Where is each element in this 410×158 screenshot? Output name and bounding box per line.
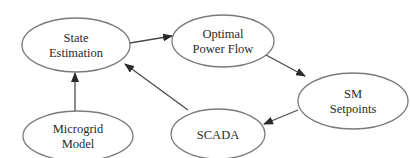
ellipse-shape xyxy=(22,18,130,72)
arrow-scada-to-state-estimation xyxy=(125,64,188,110)
ellipse-shape xyxy=(172,15,274,67)
arrow-optimal-power-flow-to-sm-setpoints xyxy=(266,55,305,76)
node-state-estimation: StateEstimation xyxy=(22,18,130,72)
node-optimal-power-flow: OptimalPower Flow xyxy=(172,15,274,67)
node-label: Optimal xyxy=(203,27,244,41)
node-label: Model xyxy=(62,137,95,151)
arrow-state-estimation-to-optimal-power-flow xyxy=(130,36,172,43)
node-label: SCADA xyxy=(197,128,239,142)
node-label: State xyxy=(64,31,89,45)
node-sm-setpoints: SMSetpoints xyxy=(298,73,408,129)
ellipse-shape xyxy=(298,73,408,129)
flow-diagram: StateEstimationOptimalPower FlowSMSetpoi… xyxy=(0,0,410,158)
node-label: Microgrid xyxy=(53,122,104,136)
nodes-group: StateEstimationOptimalPower FlowSMSetpoi… xyxy=(22,15,408,158)
node-scada: SCADA xyxy=(171,109,265,158)
node-label: SM xyxy=(344,87,362,101)
node-microgrid-model: MicrogridModel xyxy=(23,111,133,158)
node-label: Power Flow xyxy=(193,42,254,56)
node-label: Estimation xyxy=(49,46,104,60)
node-label: Setpoints xyxy=(330,102,377,116)
arrow-sm-setpoints-to-scada xyxy=(264,110,298,124)
